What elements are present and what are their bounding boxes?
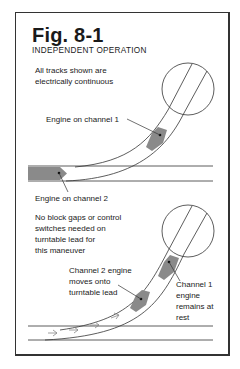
engine-channel-2-bottom — [130, 290, 150, 312]
engine-channel-1-bottom — [158, 255, 179, 280]
track-diagram — [0, 0, 240, 369]
engine-channel-1-top — [146, 127, 167, 151]
motion-arrows — [48, 313, 119, 336]
